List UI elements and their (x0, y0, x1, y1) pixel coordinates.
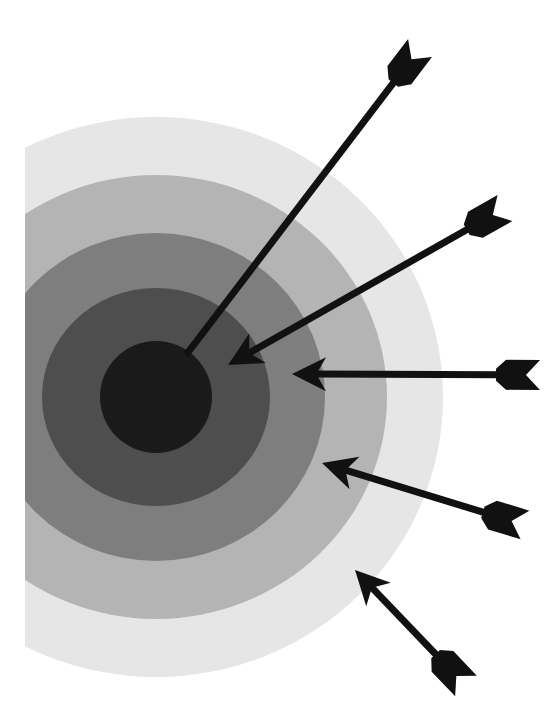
target-illustration (0, 0, 555, 711)
target-bullseye (100, 341, 212, 453)
arrow-outer-icon (355, 570, 477, 696)
